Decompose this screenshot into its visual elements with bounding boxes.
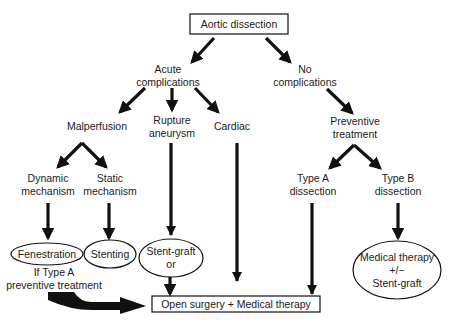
node-type-b-dissection: Type B dissection [375, 172, 422, 198]
node-preventive-treatment: Preventive treatment [330, 115, 380, 141]
node-stenting: Stenting [91, 248, 130, 261]
node-type-a-dissection: Type A dissection [290, 172, 337, 198]
node-rupture-aneurysm: Rupture aneurysm [149, 114, 195, 140]
node-malperfusion: Malperfusion [67, 120, 127, 133]
node-no-complications: No complications [273, 63, 337, 89]
node-fenestration: Fenestration [18, 248, 76, 261]
node-cardiac: Cardiac [214, 120, 250, 133]
note-if-type-a: If Type A preventive treatment [6, 266, 102, 292]
node-root: Aortic dissection [201, 18, 277, 31]
node-open-surgery: Open surgery + Medical therapy [161, 298, 311, 311]
node-static-mechanism: Static mechanism [83, 172, 137, 198]
node-stent-graft-or: Stent-graft or [146, 245, 195, 271]
curved-arrow [48, 292, 146, 314]
node-dynamic-mechanism: Dynamic mechanism [21, 172, 75, 198]
node-acute-complications: Acute complications [136, 63, 200, 89]
node-medical-therapy: Medical therapy +/− Stent-graft [360, 251, 434, 290]
